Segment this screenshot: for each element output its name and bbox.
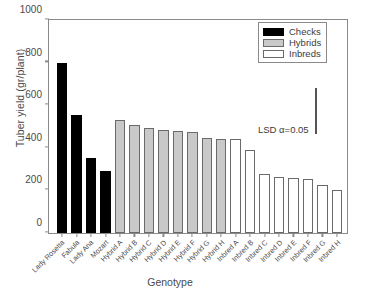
bar (71, 115, 81, 233)
bar-slot (185, 20, 199, 233)
y-tick-label: 800 (25, 46, 49, 57)
legend-item: Inbreds (263, 48, 321, 59)
legend-label: Inbreds (289, 48, 321, 59)
x-label-slot: Inbred H (330, 236, 345, 276)
bar-slot (127, 20, 141, 233)
lsd-label: LSD α=0.05 (258, 124, 309, 135)
bar-slot (243, 20, 257, 233)
legend-item: Hybrids (263, 37, 321, 48)
bar-slot (228, 20, 242, 233)
y-tick-label: 400 (25, 131, 49, 142)
bar-slot (69, 20, 83, 233)
legend: ChecksHybridsInbreds (258, 22, 327, 63)
bar (115, 120, 125, 233)
lsd-error-bar (315, 88, 317, 134)
legend-label: Hybrids (289, 37, 321, 48)
bar-slot (200, 20, 214, 233)
x-axis-title: Genotype (45, 276, 295, 288)
y-tick-label: 200 (25, 174, 49, 185)
x-axis-tick-labels: Lady RosettaFabulaLady AnaMozartHybrid A… (48, 236, 348, 276)
y-tick-label: 0 (36, 217, 49, 228)
bar-slot (214, 20, 228, 233)
legend-item: Checks (263, 26, 321, 37)
bar-slot (171, 20, 185, 233)
legend-swatch (263, 28, 284, 36)
bar (57, 63, 67, 233)
y-axis-title: Tuber yield (gr/plant) (14, 18, 26, 178)
legend-swatch (263, 39, 284, 47)
bar (144, 128, 154, 233)
bar-slot (113, 20, 127, 233)
bar-slot (330, 20, 344, 233)
bar-slot (98, 20, 112, 233)
bar-slot (156, 20, 170, 233)
bar-slot (84, 20, 98, 233)
bar (187, 132, 197, 233)
legend-label: Checks (289, 26, 321, 37)
y-tick-label: 1000 (20, 4, 49, 15)
y-tick-label: 600 (25, 89, 49, 100)
bar-chart-figure: Tuber yield (gr/plant) 02004006008001000… (0, 0, 370, 296)
legend-swatch (263, 50, 284, 58)
bar-slot (142, 20, 156, 233)
bar (129, 125, 139, 233)
bar-slot (55, 20, 69, 233)
